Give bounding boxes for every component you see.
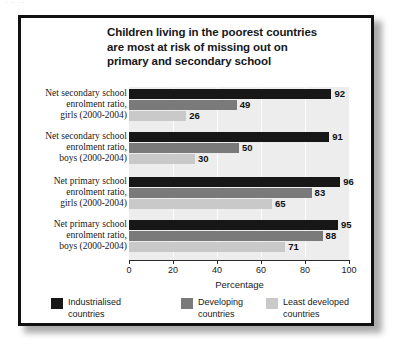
bar-value-label: 91 <box>332 131 343 142</box>
legend-label: Least developedcountries <box>283 297 349 320</box>
legend-label: Developingcountries <box>198 297 243 320</box>
x-axis-title: Percentage <box>129 279 350 290</box>
category-label-line: Net secondary school <box>23 88 127 99</box>
bar[interactable] <box>129 199 272 209</box>
bar-row: 96 <box>129 177 349 187</box>
bar[interactable] <box>129 231 323 241</box>
bar-row: 50 <box>129 143 349 153</box>
category-label-line: enrolment ratio, <box>23 230 127 241</box>
bar-group: 968365 <box>129 177 349 210</box>
bar-row: 30 <box>129 154 349 164</box>
legend-item[interactable]: Industrialisedcountries <box>51 297 121 320</box>
bar-value-label: 71 <box>288 241 299 252</box>
legend-swatch <box>181 298 193 309</box>
category-label-line: enrolment ratio, <box>23 99 127 110</box>
tick-label: 0 <box>126 265 131 275</box>
bar[interactable] <box>129 100 237 110</box>
bar-row: 26 <box>129 111 349 121</box>
bar[interactable] <box>129 242 285 252</box>
tick-label: 40 <box>212 265 222 275</box>
category-label-line: enrolment ratio, <box>23 142 127 153</box>
tick-mark <box>129 260 130 264</box>
legend-label-line: Developing <box>198 297 243 309</box>
bar-value-label: 95 <box>341 219 352 230</box>
bar[interactable] <box>129 143 239 153</box>
legend-label-line: countries <box>68 309 121 321</box>
chart-title-line-1: Children living in the poorest countries <box>107 25 365 40</box>
chart-legend: IndustrialisedcountriesDevelopingcountri… <box>51 297 351 325</box>
category-label-line: girls (2000-2004) <box>23 198 127 209</box>
bar-row: 91 <box>129 132 349 142</box>
bar-row: 92 <box>129 89 349 99</box>
bar-row: 49 <box>129 100 349 110</box>
plot-area: 924926915030968365958871 <box>129 87 349 260</box>
tick-mark <box>217 260 218 264</box>
tick-mark <box>349 260 350 264</box>
tick-mark <box>305 260 306 264</box>
bar[interactable] <box>129 220 338 230</box>
gridline <box>349 87 350 260</box>
bar[interactable] <box>129 132 329 142</box>
bar-value-label: 88 <box>326 230 337 241</box>
bar-row: 65 <box>129 199 349 209</box>
tick-label: 80 <box>300 265 310 275</box>
bar-row: 71 <box>129 242 349 252</box>
category-label-line: boys (2000-2004) <box>23 153 127 164</box>
category-label-line: Net primary school <box>23 219 127 230</box>
chart-figure-frame: Children living in the poorest countries… <box>18 15 374 326</box>
bar-value-label: 92 <box>334 88 345 99</box>
bar-value-label: 30 <box>198 153 209 164</box>
bar-value-label: 50 <box>242 142 253 153</box>
legend-label-line: countries <box>198 309 243 321</box>
legend-item[interactable]: Developingcountries <box>181 297 243 320</box>
bar-group: 958871 <box>129 220 349 253</box>
category-label: Net secondary schoolenrolment ratio,girl… <box>23 88 127 121</box>
bar-group: 915030 <box>129 132 349 165</box>
bar-group: 924926 <box>129 89 349 122</box>
x-axis-line <box>129 260 350 261</box>
bar[interactable] <box>129 111 186 121</box>
category-label: Net primary schoolenrolment ratio,boys (… <box>23 219 127 252</box>
legend-swatch <box>51 298 63 309</box>
category-label-line: boys (2000-2004) <box>23 241 127 252</box>
bar-value-label: 83 <box>315 187 326 198</box>
bar[interactable] <box>129 89 331 99</box>
category-label-line: girls (2000-2004) <box>23 110 127 121</box>
legend-swatch <box>266 298 278 309</box>
chart-title-line-3: primary and secondary school <box>107 54 365 69</box>
category-label-line: enrolment ratio, <box>23 187 127 198</box>
scan-artifact-text: · ·· ··· <box>6 0 25 6</box>
tick-label: 60 <box>256 265 266 275</box>
bar-row: 95 <box>129 220 349 230</box>
bar[interactable] <box>129 154 195 164</box>
category-label-line: Net secondary school <box>23 131 127 142</box>
category-label: Net secondary schoolenrolment ratio,boys… <box>23 131 127 164</box>
chart-title-line-2: are most at risk of missing out on <box>107 40 365 55</box>
legend-label-line: countries <box>283 309 349 321</box>
chart-figure: Children living in the poorest countries… <box>21 18 371 323</box>
chart-title: Children living in the poorest countries… <box>107 25 365 69</box>
legend-item[interactable]: Least developedcountries <box>266 297 349 320</box>
bar-row: 83 <box>129 188 349 198</box>
tick-label: 20 <box>168 265 178 275</box>
bar-value-label: 96 <box>343 176 354 187</box>
tick-mark <box>173 260 174 264</box>
bar-value-label: 65 <box>275 198 286 209</box>
legend-label-line: Least developed <box>283 297 349 309</box>
category-label-line: Net primary school <box>23 176 127 187</box>
tick-label: 100 <box>341 265 356 275</box>
bar-value-label: 26 <box>189 110 200 121</box>
bar-value-label: 49 <box>240 99 251 110</box>
bar[interactable] <box>129 188 312 198</box>
tick-mark <box>261 260 262 264</box>
legend-label-line: Industrialised <box>68 297 121 309</box>
bar[interactable] <box>129 177 340 187</box>
category-label: Net primary schoolenrolment ratio,girls … <box>23 176 127 209</box>
legend-label: Industrialisedcountries <box>68 297 121 320</box>
bar-row: 88 <box>129 231 349 241</box>
